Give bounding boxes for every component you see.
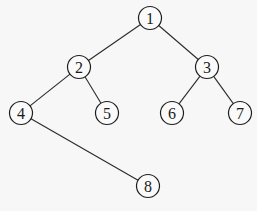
node-label: 6 (168, 105, 176, 122)
edge-4-8 (31, 119, 138, 181)
tree-node-7: 7 (229, 102, 252, 125)
node-label: 4 (17, 105, 25, 122)
edge-2-4 (30, 74, 70, 106)
edge-1-2 (88, 25, 140, 61)
node-label: 8 (144, 178, 152, 195)
node-label: 5 (103, 105, 111, 122)
edge-3-6 (179, 76, 200, 104)
node-label: 2 (75, 59, 83, 76)
edge-1-3 (159, 25, 199, 59)
node-label: 7 (236, 105, 244, 122)
tree-node-8: 8 (137, 175, 160, 198)
tree-node-5: 5 (96, 102, 119, 125)
tree-node-6: 6 (161, 102, 184, 125)
tree-edges (30, 25, 233, 181)
tree-node-3: 3 (196, 56, 219, 79)
tree-node-1: 1 (139, 7, 162, 30)
node-label: 1 (146, 10, 154, 27)
tree-nodes: 12345678 (10, 7, 252, 198)
tree-diagram: 12345678 (0, 0, 257, 211)
tree-node-2: 2 (68, 56, 91, 79)
tree-node-4: 4 (10, 102, 33, 125)
node-label: 3 (203, 59, 211, 76)
edge-2-5 (85, 77, 101, 103)
edge-3-7 (214, 76, 234, 103)
